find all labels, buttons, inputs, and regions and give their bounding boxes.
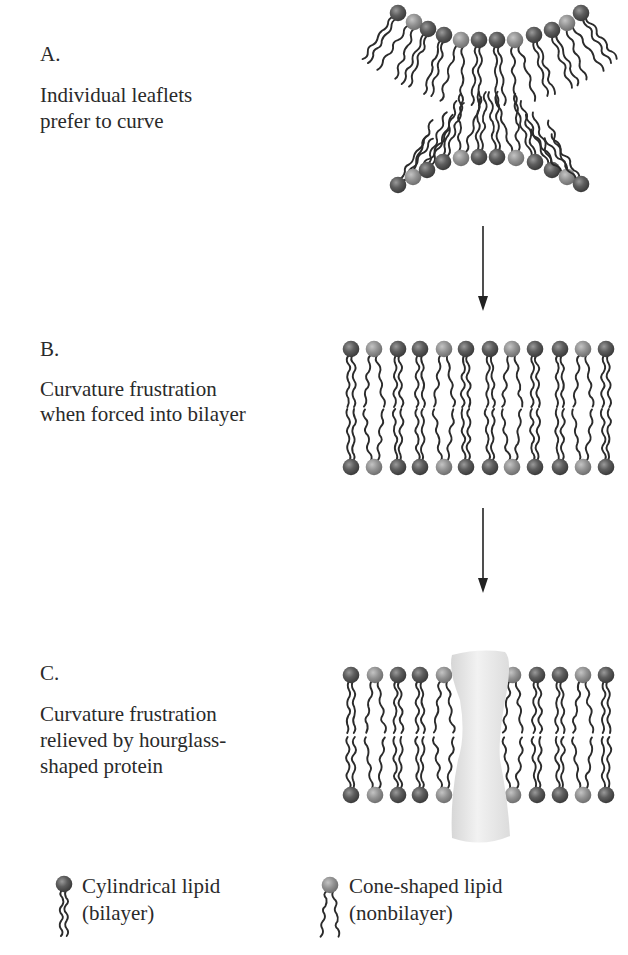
- cone-shaped-lipid-icon: [433, 409, 454, 475]
- cone-shaped-lipid-icon: [364, 341, 385, 407]
- cylindrical-lipid-icon: [390, 409, 407, 475]
- cylindrical-lipid-icon: [458, 341, 475, 407]
- cone-shaped-lipid-icon: [365, 667, 386, 733]
- cylindrical-lipid-icon: [343, 341, 360, 407]
- cylindrical-lipid-icon: [489, 32, 506, 106]
- cone-shaped-lipid-icon: [572, 409, 592, 475]
- cylindrical-lipid-icon: [343, 737, 360, 803]
- cylindrical-lipid-icon: [598, 737, 615, 803]
- cylindrical-lipid-icon: [56, 876, 73, 936]
- cylindrical-lipid-icon: [412, 737, 429, 803]
- cylindrical-lipid-icon: [598, 409, 615, 475]
- cone-shaped-lipid-icon: [363, 409, 383, 475]
- cone-shaped-lipid-icon: [573, 667, 593, 733]
- cylindrical-lipid-icon: [598, 341, 615, 407]
- cylindrical-lipid-icon: [598, 667, 615, 733]
- cone-shaped-lipid-icon: [321, 877, 340, 937]
- cylindrical-lipid-icon: [552, 341, 569, 407]
- cylindrical-lipid-icon: [390, 667, 407, 733]
- panel-a-curved-leaflets: [363, 5, 617, 194]
- cylindrical-lipid-icon: [529, 737, 546, 803]
- cone-shaped-lipid-icon: [572, 737, 592, 803]
- hourglass-protein: [451, 651, 510, 843]
- cylindrical-lipid-icon: [390, 737, 407, 803]
- cylindrical-lipid-icon: [363, 5, 407, 63]
- cylindrical-lipid-icon: [529, 667, 546, 733]
- legend-icons: [56, 876, 340, 937]
- panel-c-bilayer-with-protein: [343, 651, 615, 843]
- cylindrical-lipid-icon: [458, 409, 475, 475]
- cone-shaped-lipid-icon: [434, 667, 455, 733]
- lipid-diagram: [0, 0, 628, 955]
- arrow-a-to-b-icon: [478, 226, 488, 311]
- cylindrical-lipid-icon: [412, 341, 429, 407]
- cone-shaped-lipid-icon: [365, 737, 385, 803]
- cylindrical-lipid-icon: [552, 409, 569, 475]
- cylindrical-lipid-icon: [482, 341, 499, 407]
- cylindrical-lipid-icon: [482, 409, 499, 475]
- cylindrical-lipid-icon: [527, 341, 544, 407]
- cylindrical-lipid-icon: [552, 667, 569, 733]
- cylindrical-lipid-icon: [402, 21, 437, 87]
- cone-shaped-lipid-icon: [502, 341, 522, 407]
- cylindrical-lipid-icon: [343, 667, 360, 733]
- cylindrical-lipid-icon: [390, 341, 407, 407]
- arrow-b-to-c-icon: [478, 508, 488, 593]
- cylindrical-lipid-icon: [552, 737, 569, 803]
- cylindrical-lipid-icon: [412, 667, 429, 733]
- cylindrical-lipid-icon: [527, 409, 544, 475]
- cylindrical-lipid-icon: [412, 409, 429, 475]
- cone-shaped-lipid-icon: [502, 409, 521, 475]
- panel-b-flat-bilayer: [343, 341, 615, 476]
- cone-shaped-lipid-icon: [434, 341, 455, 407]
- cone-shaped-lipid-icon: [433, 737, 454, 803]
- cone-shaped-lipid-icon: [573, 341, 593, 407]
- cylindrical-lipid-icon: [343, 409, 360, 475]
